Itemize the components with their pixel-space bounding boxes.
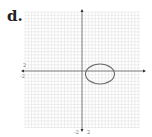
y-axis-down-arrow-icon <box>81 129 84 132</box>
coordinate-plane <box>0 0 152 137</box>
ellipse-curve <box>86 64 115 84</box>
x-tick-label-neg2: -2 <box>74 130 79 135</box>
x-axis-right-arrow-icon <box>143 70 146 73</box>
axes <box>22 10 145 131</box>
y-axis-up-arrow-icon <box>81 9 84 12</box>
axis-arrows <box>21 9 146 132</box>
y-tick-label-neg2: -2 <box>20 74 25 79</box>
x-tick-label-2: 2 <box>87 130 90 135</box>
grid <box>25 12 140 128</box>
y-tick-label-2: 2 <box>23 63 26 68</box>
